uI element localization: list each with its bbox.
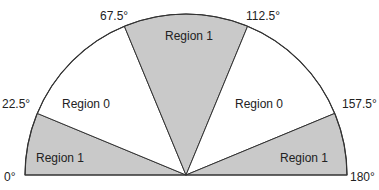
angle-label-0: 0° (4, 170, 16, 184)
region-label-157-180: Region 1 (280, 151, 328, 165)
angle-label-157-5: 157.5° (342, 97, 377, 111)
angle-label-67-5: 67.5° (100, 9, 128, 23)
region-label-67-112: Region 1 (165, 29, 213, 43)
region-label-22-67: Region 0 (62, 97, 110, 111)
angle-label-22-5: 22.5° (2, 97, 30, 111)
sector-diagram: Region 1 Region 0 Region 1 Region 0 Regi… (0, 0, 379, 190)
angle-label-112-5: 112.5° (246, 9, 280, 23)
region-label-0-22: Region 1 (36, 151, 84, 165)
region-label-112-157: Region 0 (235, 97, 283, 111)
angle-label-180: 180° (350, 170, 375, 184)
